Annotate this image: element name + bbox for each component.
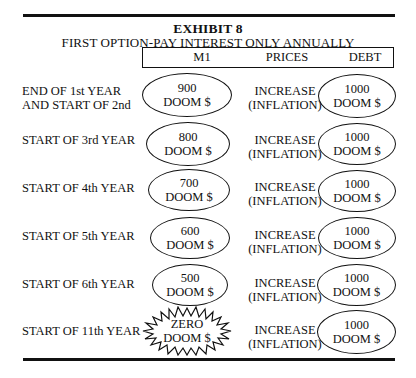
- m1-value: 700: [180, 176, 199, 190]
- m1-unit: DOOM $: [166, 238, 214, 252]
- prices-cell: INCREASE (INFLATION): [240, 276, 330, 304]
- debt-ellipse: 1000 DOOM $: [318, 123, 396, 165]
- debt-ellipse: 1000 DOOM $: [318, 170, 396, 212]
- debt-value: 1000: [344, 271, 369, 285]
- debt-ellipse: 1000 DOOM $: [317, 310, 396, 354]
- bottom-rule: [23, 358, 395, 361]
- m1-ellipse: 700 DOOM $: [148, 169, 230, 211]
- debt-value: 1000: [345, 82, 370, 96]
- m1-unit: DOOM $: [165, 190, 213, 204]
- m1-value: 500: [181, 271, 200, 285]
- row-label: START OF 3rd YEAR: [22, 133, 135, 147]
- prices-line1: INCREASE: [240, 84, 330, 98]
- m1-value: 900: [178, 81, 197, 95]
- debt-ellipse: 1000 DOOM $: [317, 264, 396, 306]
- m1-ellipse: 600 DOOM $: [150, 217, 230, 259]
- prices-line2: (INFLATION): [240, 98, 330, 112]
- m1-unit: DOOM $: [163, 331, 211, 345]
- m1-ellipse: 800 DOOM $: [146, 122, 230, 166]
- debt-value: 1000: [345, 130, 370, 144]
- m1-value: 600: [181, 224, 200, 238]
- prices-line2: (INFLATION): [240, 194, 330, 208]
- debt-ellipse: 1000 DOOM $: [318, 217, 396, 259]
- m1-unit: DOOM $: [163, 95, 211, 109]
- m1-ellipse: 500 DOOM $: [152, 264, 228, 306]
- row-label: START OF 5th YEAR: [22, 229, 135, 243]
- column-header-prices: PRICES: [247, 50, 327, 65]
- m1-value: ZERO: [171, 317, 204, 331]
- row-label-line1: END OF 1st YEAR: [22, 84, 131, 98]
- prices-cell: INCREASE (INFLATION): [240, 133, 330, 161]
- top-rule: [23, 14, 395, 17]
- prices-line1: INCREASE: [240, 180, 330, 194]
- prices-cell: INCREASE (INFLATION): [240, 180, 330, 208]
- debt-value: 1000: [345, 177, 370, 191]
- row-label-line2: AND START OF 2nd: [22, 98, 131, 112]
- prices-cell: INCREASE (INFLATION): [240, 323, 330, 351]
- m1-starburst-text: ZERO DOOM $: [141, 306, 233, 356]
- m1-ellipse: 900 DOOM $: [142, 73, 232, 117]
- prices-line2: (INFLATION): [240, 337, 330, 351]
- prices-line2: (INFLATION): [240, 290, 330, 304]
- m1-unit: DOOM $: [164, 144, 212, 158]
- debt-value: 1000: [344, 318, 369, 332]
- row-label: END OF 1st YEAR AND START OF 2nd: [22, 84, 131, 112]
- prices-line2: (INFLATION): [240, 147, 330, 161]
- prices-line1: INCREASE: [240, 228, 330, 242]
- column-header-debt: DEBT: [330, 50, 400, 65]
- prices-line2: (INFLATION): [240, 242, 330, 256]
- m1-unit: DOOM $: [166, 285, 214, 299]
- column-header-m1: M1: [172, 50, 232, 65]
- prices-cell: INCREASE (INFLATION): [240, 84, 330, 112]
- row-label-line1: START OF 4th YEAR: [22, 181, 135, 195]
- m1-value: 800: [179, 130, 198, 144]
- prices-cell: INCREASE (INFLATION): [240, 228, 330, 256]
- row-label: START OF 6th YEAR: [22, 277, 135, 291]
- row-label: START OF 4th YEAR: [22, 181, 135, 195]
- row-label-line1: START OF 5th YEAR: [22, 229, 135, 243]
- row-label: START OF 11th YEAR: [22, 324, 140, 338]
- debt-ellipse: 1000 DOOM $: [318, 74, 396, 118]
- debt-unit: DOOM $: [333, 191, 381, 205]
- debt-unit: DOOM $: [333, 96, 381, 110]
- row-label-line1: START OF 6th YEAR: [22, 277, 135, 291]
- debt-unit: DOOM $: [333, 332, 381, 346]
- debt-unit: DOOM $: [333, 144, 381, 158]
- row-label-line1: START OF 11th YEAR: [22, 324, 140, 338]
- debt-value: 1000: [345, 224, 370, 238]
- debt-unit: DOOM $: [333, 238, 381, 252]
- row-label-line1: START OF 3rd YEAR: [22, 133, 135, 147]
- prices-line1: INCREASE: [240, 133, 330, 147]
- debt-unit: DOOM $: [333, 285, 381, 299]
